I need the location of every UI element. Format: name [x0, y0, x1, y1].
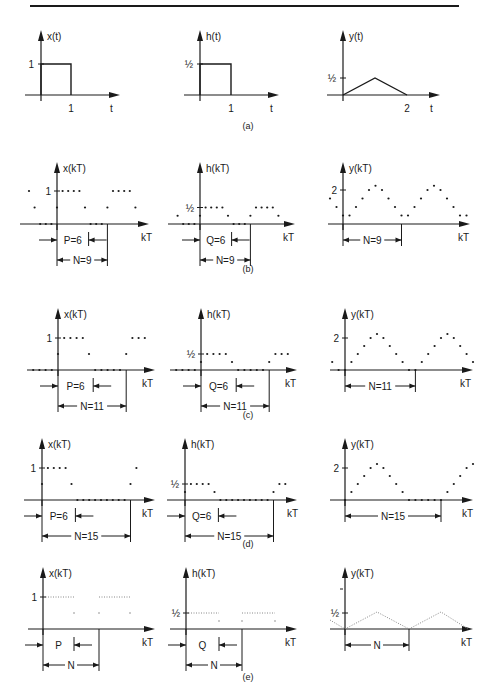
sample-dot: [370, 467, 372, 469]
sample-dot: [472, 361, 474, 363]
sample-dot: [59, 467, 61, 469]
y-axis-arrow-icon: [182, 438, 188, 449]
sample-dot: [357, 483, 359, 485]
y-axis-label: y(kT): [351, 309, 374, 320]
sample-dot: [213, 491, 215, 493]
sample-dot: [389, 345, 391, 347]
sample-dot: [221, 206, 223, 208]
sample-dot: [39, 223, 41, 225]
sample-dot: [100, 499, 102, 501]
sample-dot: [459, 214, 461, 216]
y-axis-arrow-icon: [183, 567, 189, 578]
width-marker-arrow-left-icon: [218, 514, 224, 519]
y-axis-label: x(t): [47, 31, 61, 42]
y-tick-label: ½: [331, 608, 340, 619]
y-tick-label: ½: [171, 479, 180, 490]
period-marker-arrow-left-icon: [57, 258, 63, 263]
x-axis-label: kT: [287, 508, 298, 519]
width-marker-label: Q: [199, 640, 207, 651]
sample-dot: [267, 499, 269, 501]
period-marker-arrow-left-icon: [345, 514, 351, 519]
sample-dot: [466, 353, 468, 355]
sample-dot: [134, 206, 136, 208]
sample-dot: [382, 467, 384, 469]
sample-dot: [256, 369, 258, 371]
sample-dot: [216, 206, 218, 208]
width-marker-label: P=6: [67, 381, 86, 392]
sample-dot: [194, 369, 196, 371]
period-marker-label: N=9: [216, 255, 235, 266]
x-tick-label: 2: [404, 103, 410, 114]
sample-dot: [459, 475, 461, 477]
x-axis-label: kT: [461, 637, 472, 648]
edge-sample-dot: [241, 620, 243, 622]
sample-dot: [459, 345, 461, 347]
sample-dot: [200, 361, 202, 363]
sample-dot: [88, 499, 90, 501]
period-marker-arrow-right-icon: [403, 643, 409, 648]
period-marker-label: N=11: [80, 401, 104, 412]
sample-dot: [210, 206, 212, 208]
sample-dot: [394, 206, 396, 208]
sample-dot: [421, 361, 423, 363]
width-marker-arrow-left-icon: [93, 384, 99, 389]
sample-dot: [400, 214, 402, 216]
caption-a: (a): [243, 121, 254, 131]
sample-dot: [32, 369, 34, 371]
sample-dot: [272, 206, 274, 208]
sample-dot: [208, 483, 210, 485]
sample-dot: [249, 215, 251, 217]
dotted-triangle-wave: [330, 612, 468, 629]
period-marker-arrow-right-icon: [409, 384, 415, 389]
sample-dot: [446, 197, 448, 199]
sample-dot: [219, 499, 221, 501]
sample-dot: [402, 491, 404, 493]
y-axis-label: y(t): [349, 31, 363, 42]
width-marker-label: P=6: [50, 511, 69, 522]
sample-dot: [38, 369, 40, 371]
x-axis-arrow-icon: [286, 626, 297, 632]
sample-dot: [433, 185, 435, 187]
panel-e-2: h(kT)kT½QN: [168, 567, 297, 671]
sample-dot: [95, 223, 97, 225]
y-tick-label: 2: [331, 185, 337, 196]
caption-c: (c): [243, 410, 254, 420]
y-tick-label: ½: [185, 59, 194, 70]
sample-dot: [112, 499, 114, 501]
sample-dot: [190, 483, 192, 485]
signal-curve: [343, 78, 407, 95]
x-axis-arrow-icon: [429, 92, 440, 98]
x-axis-label: kT: [141, 232, 152, 243]
sample-dot: [28, 190, 30, 192]
sample-dot: [244, 223, 246, 225]
period-marker-arrow-left-icon: [201, 404, 207, 409]
sample-dot: [112, 190, 114, 192]
period-marker-arrow-left-icon: [42, 534, 48, 539]
sample-dot: [408, 369, 410, 371]
sample-dot: [472, 463, 474, 465]
sample-dot: [90, 223, 92, 225]
period-marker-label: N: [67, 660, 74, 671]
edge-sample-dot: [129, 612, 131, 614]
sample-dot: [453, 337, 455, 339]
x-axis-arrow-icon: [144, 626, 155, 632]
sample-dot: [70, 483, 72, 485]
y-axis-arrow-icon: [39, 438, 45, 449]
sample-dot: [118, 499, 120, 501]
sample-dot: [266, 206, 268, 208]
y-tick-label: 1: [28, 59, 34, 70]
sample-dot: [124, 499, 126, 501]
x-axis-arrow-icon: [138, 221, 149, 227]
sample-dot: [453, 483, 455, 485]
sample-dot: [106, 499, 108, 501]
sample-dot: [101, 223, 103, 225]
x-axis-label: t: [430, 103, 433, 114]
sample-dot: [45, 223, 47, 225]
sample-dot: [243, 369, 245, 371]
sample-dot: [56, 206, 58, 208]
sample-dot: [50, 223, 52, 225]
x-axis-arrow-icon: [144, 367, 155, 373]
sample-dot: [51, 369, 53, 371]
period-marker-arrow-right-icon: [101, 258, 107, 263]
y-axis-arrow-icon: [342, 567, 348, 578]
